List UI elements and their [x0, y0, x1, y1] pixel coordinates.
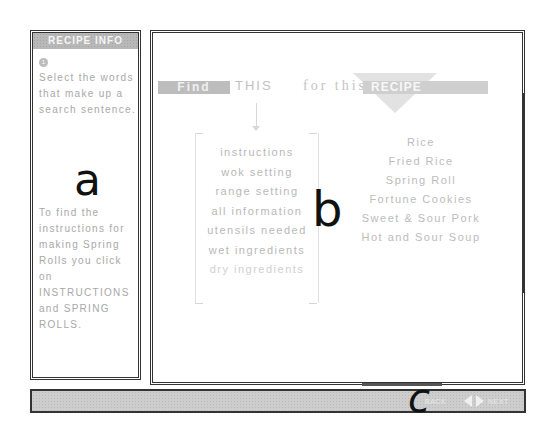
- next-label[interactable]: NEXT: [488, 398, 509, 405]
- next-arrow-icon[interactable]: [476, 395, 484, 407]
- recipe-info-panel: RECIPE INFO 1 Select the words that make…: [30, 30, 141, 380]
- word-option-utensils-needed[interactable]: utensils needed: [195, 221, 319, 241]
- arrow-down-icon: [256, 103, 257, 127]
- prev-arrow-icon[interactable]: [464, 395, 472, 407]
- for-this-label: for this: [303, 78, 367, 94]
- annotation-c: c: [408, 378, 430, 418]
- recipe-label: RECIPE: [363, 81, 488, 94]
- info-word-list: instructions wok setting range setting a…: [195, 143, 319, 280]
- word-option-wet-ingredients[interactable]: wet ingredients: [195, 241, 319, 261]
- find-label: Find: [158, 81, 230, 94]
- annotation-a: a: [74, 158, 101, 202]
- scrollbar[interactable]: [522, 93, 525, 293]
- example-text: To find the instructions for making Spri…: [39, 205, 139, 333]
- nav-controls: BACK NEXT: [425, 393, 509, 409]
- word-option-all-information[interactable]: all information: [195, 202, 319, 222]
- recipe-option-fortune-cookies[interactable]: Fortune Cookies: [351, 190, 491, 209]
- annotation-b: b: [312, 185, 342, 233]
- step-number-icon: 1: [39, 58, 48, 67]
- recipe-option-fried-rice[interactable]: Fried Rice: [351, 152, 491, 171]
- recipe-option-sweet-sour-pork[interactable]: Sweet & Sour Pork: [351, 209, 491, 228]
- this-label: THIS: [235, 78, 273, 93]
- word-option-instructions[interactable]: instructions: [195, 143, 319, 163]
- recipe-option-spring-roll[interactable]: Spring Roll: [351, 171, 491, 190]
- word-option-wok-setting[interactable]: wok setting: [195, 163, 319, 183]
- bracket-corner: [309, 303, 317, 304]
- tab-marker: [362, 383, 442, 386]
- word-option-range-setting[interactable]: range setting: [195, 182, 319, 202]
- bracket-corner: [195, 303, 203, 304]
- instruction-text: Select the words that make up a search s…: [39, 70, 139, 118]
- recipe-option-rice[interactable]: Rice: [351, 133, 491, 152]
- word-option-dry-ingredients[interactable]: dry ingredients: [195, 260, 319, 280]
- recipe-list: Rice Fried Rice Spring Roll Fortune Cook…: [351, 133, 491, 247]
- recipe-option-hot-sour-soup[interactable]: Hot and Sour Soup: [351, 228, 491, 247]
- recipe-info-header: RECIPE INFO: [33, 33, 138, 49]
